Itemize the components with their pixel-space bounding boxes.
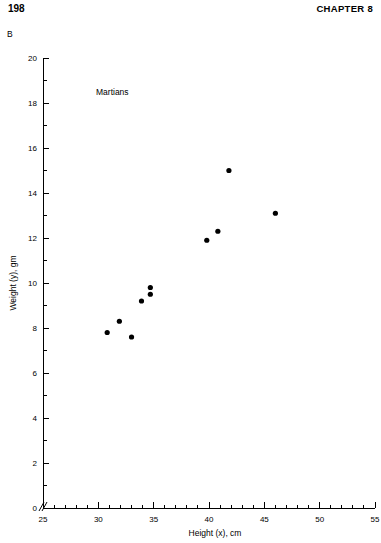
y-tick-label: 0	[33, 504, 38, 513]
x-tick-label: 40	[205, 515, 214, 524]
x-tick-label: 30	[94, 515, 103, 524]
x-tick-label: 35	[149, 515, 158, 524]
y-tick-label: 18	[28, 99, 37, 108]
y-tick-label: 10	[28, 279, 37, 288]
x-tick-label: 45	[260, 515, 269, 524]
scatter-plot-svg: 2530354045505502468101214161820 Height (…	[0, 0, 381, 543]
data-point	[117, 319, 122, 324]
axes-group	[39, 58, 375, 511]
data-point	[204, 238, 209, 243]
data-point	[105, 330, 110, 335]
y-tick-label: 6	[33, 369, 38, 378]
data-point	[139, 298, 144, 303]
y-tick-label: 2	[33, 459, 38, 468]
scatter-plot-figure: 2530354045505502468101214161820 Height (…	[0, 0, 381, 543]
y-tick-label: 4	[33, 414, 38, 423]
y-tick-label: 12	[28, 234, 37, 243]
data-point	[129, 334, 134, 339]
x-axis-title: Height (x), cm	[189, 528, 242, 538]
x-tick-label: 25	[39, 515, 48, 524]
y-tick-label: 8	[33, 324, 38, 333]
data-point	[148, 285, 153, 290]
data-points-group	[105, 168, 278, 340]
x-tick-label: 50	[315, 515, 324, 524]
y-tick-label: 20	[28, 54, 37, 63]
y-tick-label: 16	[28, 144, 37, 153]
data-point	[273, 211, 278, 216]
data-point	[215, 229, 220, 234]
tick-labels-group: 2530354045505502468101214161820	[28, 54, 380, 524]
data-point	[148, 292, 153, 297]
data-point	[226, 168, 231, 173]
y-axis-title: Weight (y), gm	[8, 255, 18, 310]
y-tick-label: 14	[28, 189, 37, 198]
ticks-group	[43, 58, 375, 508]
x-tick-label: 55	[371, 515, 380, 524]
plot-annotation-martians: Martians	[96, 87, 129, 97]
